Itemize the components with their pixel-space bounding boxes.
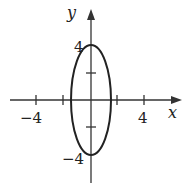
y-axis-arrow-icon bbox=[87, 9, 95, 20]
x-tick-label-neg4: −4 bbox=[20, 109, 42, 127]
x-tick-label-pos4: 4 bbox=[138, 109, 148, 127]
y-tick-label-neg4: −4 bbox=[62, 150, 84, 168]
ellipse-plot: y x −4 4 4 −4 bbox=[0, 0, 191, 185]
y-axis-label: y bbox=[66, 3, 77, 22]
y-tick-label-pos4: 4 bbox=[74, 38, 84, 56]
x-axis-label: x bbox=[168, 103, 177, 122]
